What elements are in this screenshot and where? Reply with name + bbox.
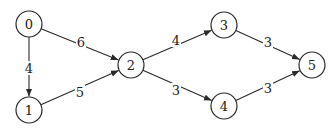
- edge-weight-label: 4: [172, 33, 180, 48]
- node-label: 0: [25, 17, 33, 32]
- edge-2-3: 4: [143, 30, 212, 60]
- edge-weight-label: 3: [172, 83, 180, 98]
- nodes: 012345: [16, 11, 325, 123]
- node-1: 1: [16, 97, 42, 123]
- node-label: 4: [220, 99, 228, 114]
- node-label: 3: [220, 18, 228, 33]
- graph-diagram: 4654333 012345: [0, 0, 334, 130]
- edge-1-2: 5: [41, 70, 119, 104]
- edge-0-2: 6: [41, 29, 118, 60]
- node-2: 2: [118, 52, 144, 78]
- edge-weight-label: 4: [25, 61, 33, 76]
- node-label: 1: [25, 103, 33, 118]
- edges: 4654333: [24, 29, 300, 105]
- node-5: 5: [299, 52, 325, 78]
- edge-weight-label: 3: [264, 81, 272, 96]
- node-4: 4: [211, 93, 237, 119]
- edge-weight-label: 5: [76, 85, 84, 100]
- edge-4-5: 3: [236, 71, 300, 101]
- edge-weight-label: 6: [77, 35, 85, 50]
- edge-0-1: 4: [24, 37, 34, 97]
- node-label: 2: [127, 58, 135, 73]
- edge-2-4: 3: [143, 70, 212, 100]
- edge-weight-label: 3: [264, 35, 272, 50]
- node-0: 0: [16, 11, 42, 37]
- edge-3-5: 3: [236, 30, 300, 59]
- node-3: 3: [211, 12, 237, 38]
- node-label: 5: [308, 58, 316, 73]
